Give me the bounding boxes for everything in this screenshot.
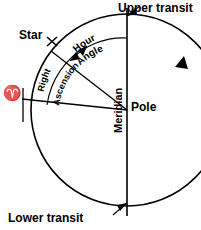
- star-cross-marker: [47, 37, 57, 46]
- label-lower-transit: Lower transit: [8, 212, 83, 224]
- label-pole: Pole: [131, 101, 156, 113]
- right-ascension-word-2: Ascension: [51, 60, 80, 106]
- aries-vernal-equinox-icon: ♈: [3, 85, 22, 100]
- counterclockwise-rotation-arrow: [175, 56, 188, 69]
- right-ascension-word-1: Right: [36, 67, 53, 93]
- diagram-canvas: Hour Angle Right Ascension Upper transit…: [0, 0, 201, 230]
- label-star: Star: [19, 29, 42, 41]
- label-meridian: Meridian: [113, 88, 124, 133]
- label-upper-transit: Upper transit: [118, 2, 193, 14]
